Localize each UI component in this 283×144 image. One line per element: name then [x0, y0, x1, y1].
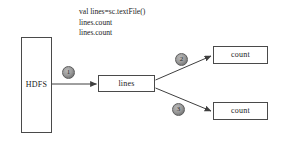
node-hdfs: HDFS	[21, 37, 52, 133]
node-count-top: count	[213, 46, 268, 64]
flow-diagram-canvas: val lines=sc.textFile() lines.count line…	[0, 0, 283, 144]
step-badge-3: 3	[172, 103, 185, 116]
step-badge-3-number: 3	[177, 106, 181, 113]
node-lines-label: lines	[118, 80, 134, 88]
step-badge-1: 1	[62, 66, 75, 79]
node-lines: lines	[98, 75, 155, 92]
code-line-1: val lines=sc.textFile()	[79, 7, 199, 18]
node-count-bottom: count	[213, 102, 268, 120]
step-badge-1-number: 1	[67, 69, 71, 76]
code-annotation: val lines=sc.textFile() lines.count line…	[79, 7, 199, 39]
node-count-bottom-label: count	[231, 107, 250, 115]
step-badge-2: 2	[175, 53, 188, 66]
code-line-3: lines.count	[79, 28, 199, 39]
node-hdfs-label: HDFS	[26, 81, 47, 89]
node-count-top-label: count	[231, 51, 250, 59]
step-badge-2-number: 2	[180, 56, 184, 63]
code-line-2: lines.count	[79, 18, 199, 29]
